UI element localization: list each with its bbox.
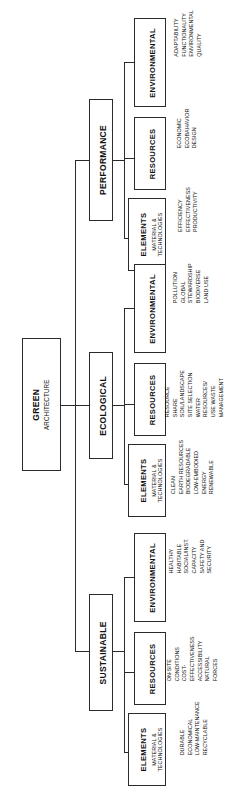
leaflist-ecological-resources: RESOURCESHARESOIL/LANDSCAPESITE SELECTIO…	[166, 363, 224, 439]
leaf-items: HEALTHYHABITABLESOCIAL/INST.CAPACITYSAFE…	[168, 538, 214, 573]
node-sustainable-environmental[interactable]: ENVIRONMENTAL	[134, 533, 166, 622]
leaf-items: RESOURCESHARESOIL/LANDSCAPESITE SELECTIO…	[164, 370, 225, 417]
leaf-item: SITE SELECTION	[187, 370, 195, 417]
node-subtitle: MATERIAL &TECHNOLOGIES	[150, 212, 162, 256]
leaf-item: FORCES	[211, 636, 219, 681]
leaf-items: ADAPTABILITYFUNCTIONALITYENVIRONMENTALQU…	[173, 10, 204, 57]
leaf-item: MANAGEMENT	[218, 370, 226, 417]
leaf-item: ECONOMICAL	[186, 701, 194, 755]
node-ecological-elements[interactable]: ELEMENTS MATERIAL &TECHNOLOGIES	[128, 444, 166, 517]
connector-spine-ecological	[75, 405, 89, 406]
leaf-item: ENERGY	[201, 440, 209, 495]
leaf-item: DESIGN	[192, 109, 200, 149]
leaf-item: FUNCTIONALITY	[180, 10, 188, 57]
node-title: ENVIRONMENTAL	[148, 543, 157, 613]
node-ecological-environmental[interactable]: ENVIRONMENTAL	[134, 264, 166, 353]
node-title: ENVIRONMENTAL	[148, 28, 157, 98]
leaflist-sustainable-environmental: HEALTHYHABITABLESOCIAL/INST.CAPACITYSAFE…	[166, 533, 216, 625]
node-title: ENVIRONMENTAL	[148, 274, 157, 344]
connector-sustainable-resources	[124, 672, 134, 673]
connector-sustainable-stem	[113, 651, 124, 652]
node-title: ELEMENTS	[139, 213, 148, 257]
node-sustainable-resources[interactable]: RESOURCES	[134, 632, 166, 705]
leaf-item: LOW-MAINTENANCE	[194, 701, 202, 755]
node-branch-sustainable[interactable]: SUSTAINABLE	[89, 594, 113, 711]
leaf-item: NATURAL	[204, 636, 212, 681]
connector-ecological-spine	[124, 308, 125, 484]
leaf-item: DURABLE	[179, 701, 187, 755]
node-subtitle: MATERIAL &TECHNOLOGIES	[150, 727, 162, 771]
leaf-item: STEWARDSHIP	[187, 263, 195, 303]
branch-performance-label: PERFORMANCE	[98, 125, 108, 195]
connector-performance-environmental	[124, 62, 134, 63]
leaf-items: ON-SITECONDITIONSCOST-EFFECTIVENESSACCES…	[165, 636, 219, 681]
node-sustainable-elements[interactable]: ELEMENTS MATERIAL &TECHNOLOGIES	[128, 713, 166, 786]
leaf-items: DURABLEECONOMICALLOW-MAINTENANCERECYCLAB…	[179, 701, 210, 755]
connector-ecological-environmental	[124, 308, 134, 309]
green-architecture-diagram: GREEN ARCHITECTURE PERFORMANCE ECOLOGICA…	[0, 0, 248, 811]
connector-performance-stem	[113, 160, 124, 161]
node-performance-elements[interactable]: ELEMENTS MATERIAL &TECHNOLOGIES	[128, 198, 166, 271]
node-ecological-resources[interactable]: RESOURCES	[134, 363, 166, 436]
leaf-items: ECONOMICECOBAHAVIORDESIGN	[176, 109, 199, 149]
connector-performance-resources	[124, 158, 134, 159]
leaf-item: POLLUTION	[172, 263, 180, 303]
node-branch-performance[interactable]: PERFORMANCE	[89, 99, 113, 221]
leaf-item: ON-SITE	[165, 636, 173, 681]
leaflist-sustainable-elements: DURABLEECONOMICALLOW-MAINTENANCERECYCLAB…	[166, 713, 222, 789]
leaf-item: PRODUCTIVITY	[192, 187, 200, 232]
leaf-item: LOW-EMBODIED	[193, 440, 201, 495]
connector-spine-performance	[75, 160, 89, 161]
connector-sustainable-environmental	[124, 577, 134, 578]
leaf-item: EARTH RESOURCES	[178, 440, 186, 495]
branch-ecological-label: ECOLOGICAL	[98, 376, 108, 436]
node-title: RESOURCES	[148, 643, 157, 694]
connector-ecological-resources	[124, 404, 134, 405]
leaf-items: EFFICIENCYEFFECTIVENESSPRODUCTIVITY	[177, 187, 200, 232]
leaf-item: ACCESSIBILITY	[196, 636, 204, 681]
root-subtitle: ARCHITECTURE	[43, 379, 50, 430]
leaf-item: ECOBAHAVIOR	[184, 109, 192, 149]
connector-root-stem	[61, 405, 75, 406]
leaf-item: RECYCLABLE	[202, 701, 210, 755]
branch-sustainable-label: SUSTAINABLE	[98, 621, 108, 684]
leaflist-performance-resources: ECONOMICECOBAHAVIORDESIGN	[166, 117, 210, 193]
leaf-item: QUALITY	[196, 10, 204, 57]
leaf-items: CLEANEARTH RESOURCESBIODEGRADABLELOW-EMB…	[170, 440, 216, 495]
node-title: ELEMENTS	[139, 728, 148, 772]
leaflist-ecological-environmental: POLLUTIONGLOBALSTEWARDSHIPBIODIVERSELAND…	[166, 264, 216, 356]
leaf-item: COST-	[180, 636, 188, 681]
node-performance-resources[interactable]: RESOURCES	[134, 117, 166, 190]
leaf-item: CONDITIONS	[173, 636, 181, 681]
connector-performance-spine	[124, 62, 125, 238]
leaf-item: CLEAN	[170, 440, 178, 495]
node-title: RESOURCES	[148, 374, 157, 425]
leaflist-sustainable-resources: ON-SITECONDITIONSCOST-EFFECTIVENESSACCES…	[166, 632, 218, 708]
leaf-item: LAND USE	[203, 263, 211, 303]
node-title: ELEMENTS	[139, 459, 148, 503]
leaf-item: ADAPTABILITY	[173, 10, 181, 57]
leaf-item: ENVIRONMENTAL	[188, 10, 196, 57]
leaf-item: ECONOMIC	[176, 109, 184, 149]
connector-spine-sustainable	[75, 651, 89, 652]
leaf-items: POLLUTIONGLOBALSTEWARDSHIPBIODIVERSELAND…	[172, 263, 210, 303]
leaflist-performance-environmental: ADAPTABILITYFUNCTIONALITYENVIRONMENTALQU…	[166, 18, 210, 110]
leaf-item: BIODIVERSE	[195, 263, 203, 303]
leaf-item: GLOBAL	[179, 263, 187, 303]
leaf-item: EFFECTIVENESS	[184, 187, 192, 232]
leaf-item: EFFICIENCY	[177, 187, 185, 232]
node-title: RESOURCES	[148, 128, 157, 179]
leaf-item: SECURITY	[206, 538, 214, 573]
node-subtitle: MATERIAL &TECHNOLOGIES	[150, 458, 162, 502]
node-root-green-architecture[interactable]: GREEN ARCHITECTURE	[22, 338, 61, 471]
leaf-item: EFFECTIVENESS	[188, 636, 196, 681]
leaf-item: BIODEGRADABLE	[185, 440, 193, 495]
root-title: GREEN	[32, 389, 42, 421]
connector-sustainable-spine	[124, 577, 125, 752]
node-branch-ecological[interactable]: ECOLOGICAL	[89, 352, 113, 459]
node-performance-environmental[interactable]: ENVIRONMENTAL	[134, 18, 166, 107]
leaflist-ecological-elements: CLEANEARTH RESOURCESBIODEGRADABLELOW-EMB…	[166, 444, 220, 520]
connector-ecological-stem	[113, 405, 124, 406]
leaf-item: RENEWABLE	[208, 440, 216, 495]
